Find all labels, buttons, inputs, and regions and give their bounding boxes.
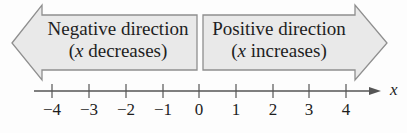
tick-label: −2 <box>111 101 141 119</box>
negative-direction-subtitle: (x decreases) <box>38 40 198 62</box>
negative-direction-label: Negative direction (x decreases) <box>38 18 198 62</box>
positive-direction-subtitle: (x increases) <box>203 40 355 62</box>
x-axis-label: x <box>390 80 398 100</box>
tick-label: 2 <box>258 101 288 119</box>
tick-label: 3 <box>294 101 324 119</box>
tick-label: −1 <box>148 101 178 119</box>
tick-label: 1 <box>221 101 251 119</box>
tick-label: −4 <box>37 101 67 119</box>
positive-direction-title: Positive direction <box>203 18 355 40</box>
tick-label: −3 <box>74 101 104 119</box>
number-line-diagram: Negative direction (x decreases) Positiv… <box>0 0 407 133</box>
tick-label: 0 <box>184 101 214 119</box>
tick-label: 4 <box>331 101 361 119</box>
negative-direction-title: Negative direction <box>38 18 198 40</box>
positive-direction-label: Positive direction (x increases) <box>203 18 355 62</box>
x-axis-arrowhead-icon <box>369 87 381 95</box>
